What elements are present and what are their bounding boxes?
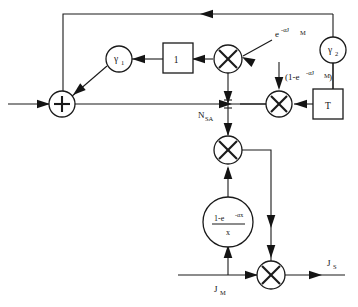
arrowhead-branch-down (267, 215, 276, 228)
arrowhead-into-multcenter-bottom (224, 166, 233, 179)
one-minus-exp-label: (1-e -αJ M ) (285, 69, 332, 82)
transfer-numerator-superscript: -αx (235, 212, 243, 218)
arrowhead-into-gamma1 (132, 55, 145, 64)
wire-input (8, 100, 50, 109)
wire-exp-into-multtop (240, 40, 272, 67)
gamma1-label: γ (113, 54, 118, 64)
one-minus-exp-superscript: -αJ (306, 69, 315, 76)
wire-top-feedback (63, 10, 333, 96)
transfer-function-node[interactable]: 1-e -αx x (203, 197, 253, 247)
arrowhead-output-js (309, 271, 322, 280)
gamma2-node[interactable]: γ 2 (320, 37, 346, 63)
js-base: J (327, 258, 331, 268)
one-minus-exp-prefix: (1-e (285, 72, 300, 82)
block-diagram-container: γ 1 1 γ 2 T (0, 0, 358, 307)
wire-transfer-to-multcenter (224, 166, 233, 197)
summing-junction[interactable] (49, 91, 75, 117)
block-diagram-canvas: γ 1 1 γ 2 T (0, 0, 358, 307)
wire-oneminusexp-into-multright (275, 62, 284, 90)
jm-base: J (214, 284, 218, 294)
gamma1-subscript: 1 (121, 59, 124, 66)
transfer-denominator: x (226, 228, 230, 237)
arrowhead-into-multbottom (267, 245, 276, 258)
wire-sum-to-gamma1 (70, 66, 107, 98)
exp-term-superscript: -αJ (281, 26, 290, 33)
multiplier-top[interactable] (214, 45, 242, 73)
nsa-base: N (198, 110, 205, 120)
gamma2-label: γ (327, 45, 332, 55)
gamma1-node[interactable]: γ 1 (106, 46, 132, 72)
jm-label: J M (214, 284, 226, 296)
arrowhead-top-feedback (200, 10, 213, 19)
multiplier-bottom[interactable] (257, 261, 285, 289)
delay-T-label: T (325, 101, 331, 111)
arrowhead-into-multright (294, 100, 307, 109)
nsa-label: N SA (198, 110, 214, 122)
gamma2-subscript: 2 (335, 50, 338, 57)
delay-T-box[interactable]: T (313, 89, 343, 119)
exp-term-label: e -αJ M (275, 26, 306, 39)
nsa-subscript: SA (205, 115, 214, 122)
arrowhead-trunk-right (219, 100, 232, 109)
jm-subscript: M (220, 289, 226, 296)
wire-bottom-input (178, 271, 258, 280)
exp-term-base: e (275, 29, 279, 39)
js-subscript: S (333, 263, 337, 270)
wire-T-to-multright (294, 100, 313, 109)
arrowhead-oneminusexp (275, 77, 284, 90)
arrowhead-into-multcenter (224, 123, 233, 136)
multiplier-right[interactable] (266, 91, 292, 117)
exp-term-sup-subscript: M (300, 29, 306, 36)
js-label: J S (327, 258, 337, 270)
wire-output-js (285, 271, 345, 280)
transfer-numerator: 1-e (214, 214, 225, 223)
arrowhead-into-box1 (192, 55, 205, 64)
wire-box1-to-gamma1 (132, 55, 163, 64)
multiplier-center[interactable] (214, 136, 242, 164)
gain-one-label: 1 (174, 55, 179, 65)
wire-multtop-to-box1 (192, 55, 213, 64)
one-minus-exp-suffix: ) (329, 72, 332, 82)
wire-bottom-to-transfer (224, 245, 233, 275)
arrowhead-into-multbottom-left (245, 271, 258, 280)
gain-one-box[interactable]: 1 (163, 43, 193, 73)
wire-trunk-to-multcenter (224, 104, 233, 136)
arrowhead-input (37, 100, 50, 109)
wire-multtop-to-trunk (224, 73, 233, 104)
